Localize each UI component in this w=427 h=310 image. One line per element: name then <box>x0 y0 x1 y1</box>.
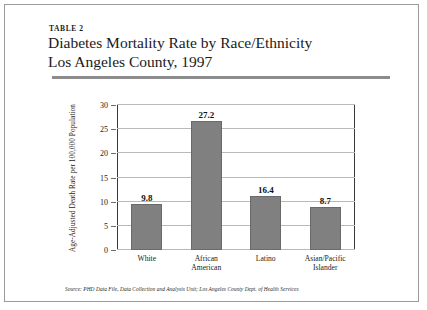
y-tick-label: 20 <box>100 149 108 158</box>
y-tick-mark <box>111 105 116 106</box>
gridline <box>117 128 355 129</box>
x-axis-category-label: Asian/Pacific Islander <box>305 254 346 272</box>
gridline <box>117 152 355 153</box>
bar: 27.2African American <box>191 121 222 250</box>
gridline <box>117 104 355 105</box>
y-tick-label: 0 <box>104 246 108 255</box>
source-note: Source: PHD Data File, Data Collection a… <box>65 286 299 292</box>
bar: 16.4Latino <box>250 196 281 250</box>
y-tick-mark <box>111 202 116 203</box>
x-axis-category-label: African American <box>191 254 221 272</box>
y-tick-mark <box>111 178 116 179</box>
title-divider-rule <box>52 76 390 79</box>
y-tick-label: 30 <box>100 101 108 110</box>
title-line-2: Los Angeles County, 1997 <box>48 52 398 71</box>
y-tick-mark <box>111 153 116 154</box>
bar: 9.8White <box>131 204 162 250</box>
y-tick-mark <box>111 226 116 227</box>
bar-value-label: 16.4 <box>258 185 274 195</box>
figure-title: Diabetes Mortality Rate by Race/Ethnicit… <box>48 33 398 71</box>
y-tick-label: 25 <box>100 125 108 134</box>
table-number-label: TABLE 2 <box>49 24 84 33</box>
x-axis-category-label: Latino <box>256 254 276 263</box>
bar-value-label: 27.2 <box>198 110 214 120</box>
y-tick-mark <box>111 129 116 130</box>
figure-container: TABLE 2 Diabetes Mortality Rate by Race/… <box>4 4 419 302</box>
bar: 8.7Asian/Pacific Islander <box>310 207 341 250</box>
title-line-1: Diabetes Mortality Rate by Race/Ethnicit… <box>48 33 398 52</box>
bar-value-label: 9.8 <box>141 193 152 203</box>
y-tick-label: 5 <box>104 221 108 230</box>
y-tick-label: 10 <box>100 197 108 206</box>
bar-chart: 051015202530 9.8White27.2African America… <box>117 105 355 250</box>
x-axis-category-label: White <box>137 254 156 263</box>
gridline <box>117 177 355 178</box>
y-axis-title-text: Age-Adjusted Death Rate per 100,000 Popu… <box>69 104 77 252</box>
y-tick-mark <box>111 250 116 251</box>
bar-value-label: 8.7 <box>320 196 331 206</box>
y-tick-label: 15 <box>100 173 108 182</box>
y-axis-title: Age-Adjusted Death Rate per 100,000 Popu… <box>67 105 79 250</box>
